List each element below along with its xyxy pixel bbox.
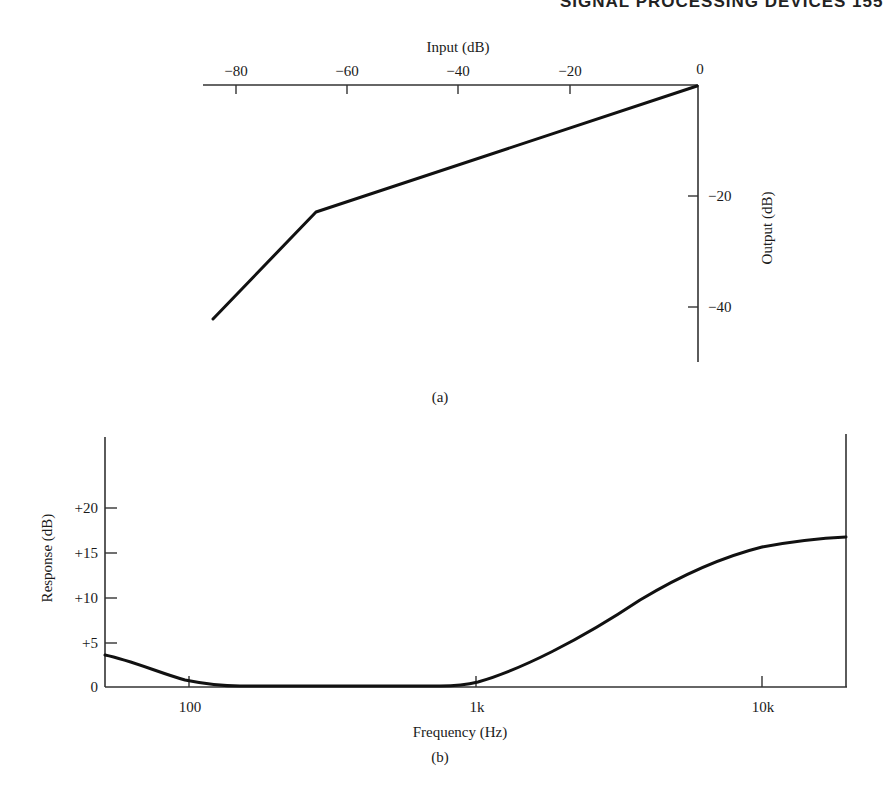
chart-b-ytick: +10 — [75, 590, 98, 606]
chart-a-transfer-curve — [213, 86, 697, 319]
chart-a-x-ticks: −80 −60 −40 −20 0 — [224, 61, 703, 94]
chart-a-ytick: −20 — [708, 188, 731, 204]
chart-b-xtick: 10k — [752, 699, 775, 715]
chart-a-caption: (a) — [432, 389, 449, 406]
chart-b-ytick: +20 — [75, 500, 98, 516]
chart-a: Input (dB) −80 −60 −40 −20 0 −20 −40 Out… — [203, 39, 776, 406]
chart-b-ytick: +15 — [75, 545, 98, 561]
chart-b-xlabel: Frequency (Hz) — [413, 724, 508, 741]
chart-a-xtick: −40 — [446, 63, 469, 79]
chart-a-xtick: −60 — [335, 63, 358, 79]
chart-b: 0 +5 +10 +15 +20 Response (dB) 100 1k 10… — [39, 434, 847, 766]
chart-b-y-ticks: 0 +5 +10 +15 +20 — [75, 500, 117, 695]
chart-a-xtick: 0 — [696, 61, 704, 77]
chart-b-caption: (b) — [431, 749, 449, 766]
chart-b-xtick: 100 — [179, 699, 202, 715]
chart-b-response-curve — [105, 537, 846, 686]
chart-a-ytick: −40 — [708, 299, 731, 315]
chart-a-xlabel: Input (dB) — [427, 39, 490, 56]
chart-b-ytick: 0 — [91, 679, 99, 695]
chart-a-ylabel: Output (dB) — [759, 192, 776, 265]
chart-a-xtick: −80 — [224, 63, 247, 79]
chart-a-xtick: −20 — [558, 63, 581, 79]
chart-b-xtick: 1k — [470, 699, 486, 715]
chart-b-ylabel: Response (dB) — [39, 514, 56, 603]
chart-b-ytick: +5 — [82, 635, 98, 651]
chart-a-y-ticks: −20 −40 — [688, 188, 731, 315]
